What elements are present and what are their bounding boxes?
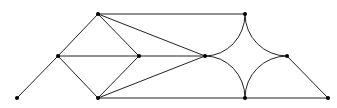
edge-H-J (287, 56, 328, 98)
node-A (15, 96, 19, 100)
node-E (96, 96, 100, 100)
edge-H-I (245, 56, 287, 98)
edge-G-H (245, 14, 287, 56)
graph-edges (17, 14, 328, 98)
node-I (243, 96, 247, 100)
edge-C-D (98, 14, 139, 56)
node-D (137, 54, 141, 58)
edge-I-F (205, 56, 245, 98)
edge-F-G (205, 14, 245, 56)
edge-E-D (98, 56, 139, 98)
edge-B-E (58, 56, 98, 98)
node-G (243, 12, 247, 16)
graph-diagram (0, 0, 337, 108)
node-C (96, 12, 100, 16)
edge-E-F (98, 56, 205, 98)
node-F (203, 54, 207, 58)
node-J (326, 96, 330, 100)
node-B (56, 54, 60, 58)
edge-A-B (17, 56, 58, 98)
edge-B-C (58, 14, 98, 56)
node-H (285, 54, 289, 58)
edge-C-F (98, 14, 205, 56)
